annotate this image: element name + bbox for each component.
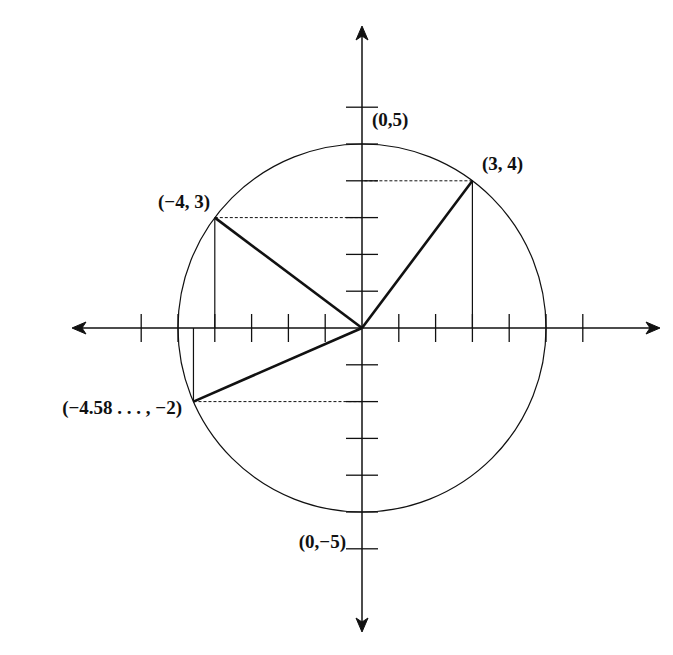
coordinate-diagram: (3, 4)(−4, 3)(−4.58 . . . , −2)(0,5)(0,−…	[0, 0, 673, 655]
point-labels: (3, 4)(−4, 3)(−4.58 . . . , −2)(0,5)(0,−…	[62, 109, 523, 553]
vector-p1	[362, 181, 472, 328]
radius-vectors	[193, 181, 472, 402]
label-top-intercept: (0,5)	[372, 109, 408, 131]
label-bottom-intercept: (0,−5)	[299, 531, 346, 553]
point-label-p3: (−4.58 . . . , −2)	[62, 397, 182, 419]
projection-guides	[193, 181, 472, 402]
point-label-p2: (−4, 3)	[158, 191, 210, 213]
vector-p2	[215, 218, 362, 328]
point-label-p1: (3, 4)	[482, 153, 523, 175]
vector-p3	[193, 328, 362, 402]
